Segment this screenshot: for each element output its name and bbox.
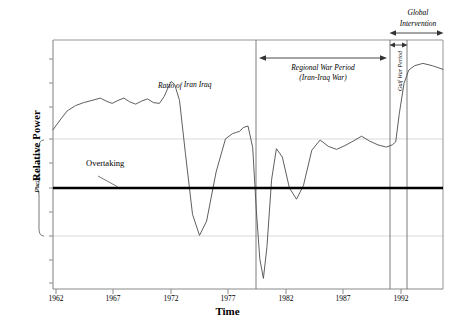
y-axis-ticks xyxy=(49,59,53,283)
annotation-overtaking: Overtaking xyxy=(86,158,124,168)
annotation-regional-war-line2: (Iran-Iraq War) xyxy=(262,73,384,82)
annotation-ratio-numerator: Iran xyxy=(184,80,197,89)
x-tick-label-1972: 1972 xyxy=(151,294,191,303)
annotation-gulf-war-period: Gulf War Period xyxy=(397,41,403,101)
x-tick-label-1967: 1967 xyxy=(93,294,133,303)
annotation-global-line2: Intervention xyxy=(382,19,454,28)
x-tick-label-1977: 1977 xyxy=(208,294,248,303)
annotation-ratio-lead: Ratio of xyxy=(158,81,182,90)
annotation-regional-war-line1: Regional War Period xyxy=(262,63,384,72)
overtaking-leader-line xyxy=(98,176,118,187)
x-tick-label-1962: 1962 xyxy=(36,294,76,303)
annotation-ratio-denominator: Iraq xyxy=(199,80,212,89)
annotation-ratio-iran-iraq: Ratio of Iran Iraq xyxy=(158,80,212,90)
x-axis-title: Time xyxy=(0,305,455,317)
annotation-ratio-fraction: Iran Iraq xyxy=(184,80,212,89)
global-intervention-arrow xyxy=(390,30,444,36)
chart-figure: Relative Power Parity Time 1962 1967 197… xyxy=(0,0,455,327)
parity-label: Parity xyxy=(33,159,41,209)
annotation-global-line1: Global xyxy=(382,8,454,17)
data-line-iran-iraq-ratio xyxy=(53,63,443,278)
regional-war-arrow xyxy=(259,55,387,61)
x-tick-label-1987: 1987 xyxy=(323,294,363,303)
x-tick-label-1992: 1992 xyxy=(381,294,421,303)
x-tick-label-1982: 1982 xyxy=(266,294,306,303)
chart-canvas xyxy=(0,0,455,327)
